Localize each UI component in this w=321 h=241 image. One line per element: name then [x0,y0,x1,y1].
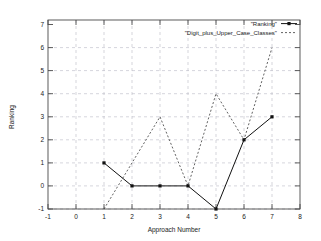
horizontal-gridlines [48,48,300,209]
y-axis-tick-labels: -1 0 1 2 3 4 5 6 7 [38,21,44,213]
x-axis-ticks [48,20,300,209]
data-point-marker [270,115,273,118]
plot-frame [48,20,300,209]
x-tick-label: 4 [186,213,190,220]
data-point-marker [214,207,217,210]
y-tick-label: 4 [40,90,44,97]
legend-marker-ranking [287,22,290,25]
y-tick-label: 2 [40,136,44,143]
chart-figure: -1 0 1 2 3 4 5 6 7 -1 0 1 2 3 4 5 6 7 8 … [0,0,321,241]
vertical-gridlines [76,20,272,209]
y-tick-label: -1 [38,205,44,212]
y-tick-label: 0 [40,182,44,189]
x-tick-label: 7 [270,213,274,220]
y-tick-label: 6 [40,44,44,51]
line-chart: -1 0 1 2 3 4 5 6 7 -1 0 1 2 3 4 5 6 7 8 … [0,0,321,241]
y-tick-label: 1 [40,159,44,166]
x-tick-label: -1 [45,213,51,220]
x-axis-tick-labels: -1 0 1 2 3 4 5 6 7 8 [45,213,302,220]
x-tick-label: 3 [158,213,162,220]
x-tick-label: 6 [242,213,246,220]
data-point-marker [130,184,133,187]
y-tick-label: 5 [40,67,44,74]
x-tick-label: 8 [298,213,302,220]
legend-label-ranking: "Ranking" [251,21,277,27]
y-axis-title: Ranking [8,105,16,129]
x-tick-label: 2 [130,213,134,220]
y-tick-label: 7 [40,21,44,28]
x-tick-label: 0 [74,213,78,220]
x-tick-label: 1 [102,213,106,220]
chart-legend: "Ranking" "Digit_plus_Upper_Case_Classes… [185,21,297,36]
data-point-marker [102,161,105,164]
x-axis-title: Approach Number [148,226,202,234]
x-tick-label: 5 [214,213,218,220]
data-point-marker [242,138,245,141]
data-point-marker [186,184,189,187]
legend-label-digit-plus-upper-case-classes: "Digit_plus_Upper_Case_Classes" [185,30,277,36]
y-tick-label: 3 [40,113,44,120]
data-point-marker [158,184,161,187]
